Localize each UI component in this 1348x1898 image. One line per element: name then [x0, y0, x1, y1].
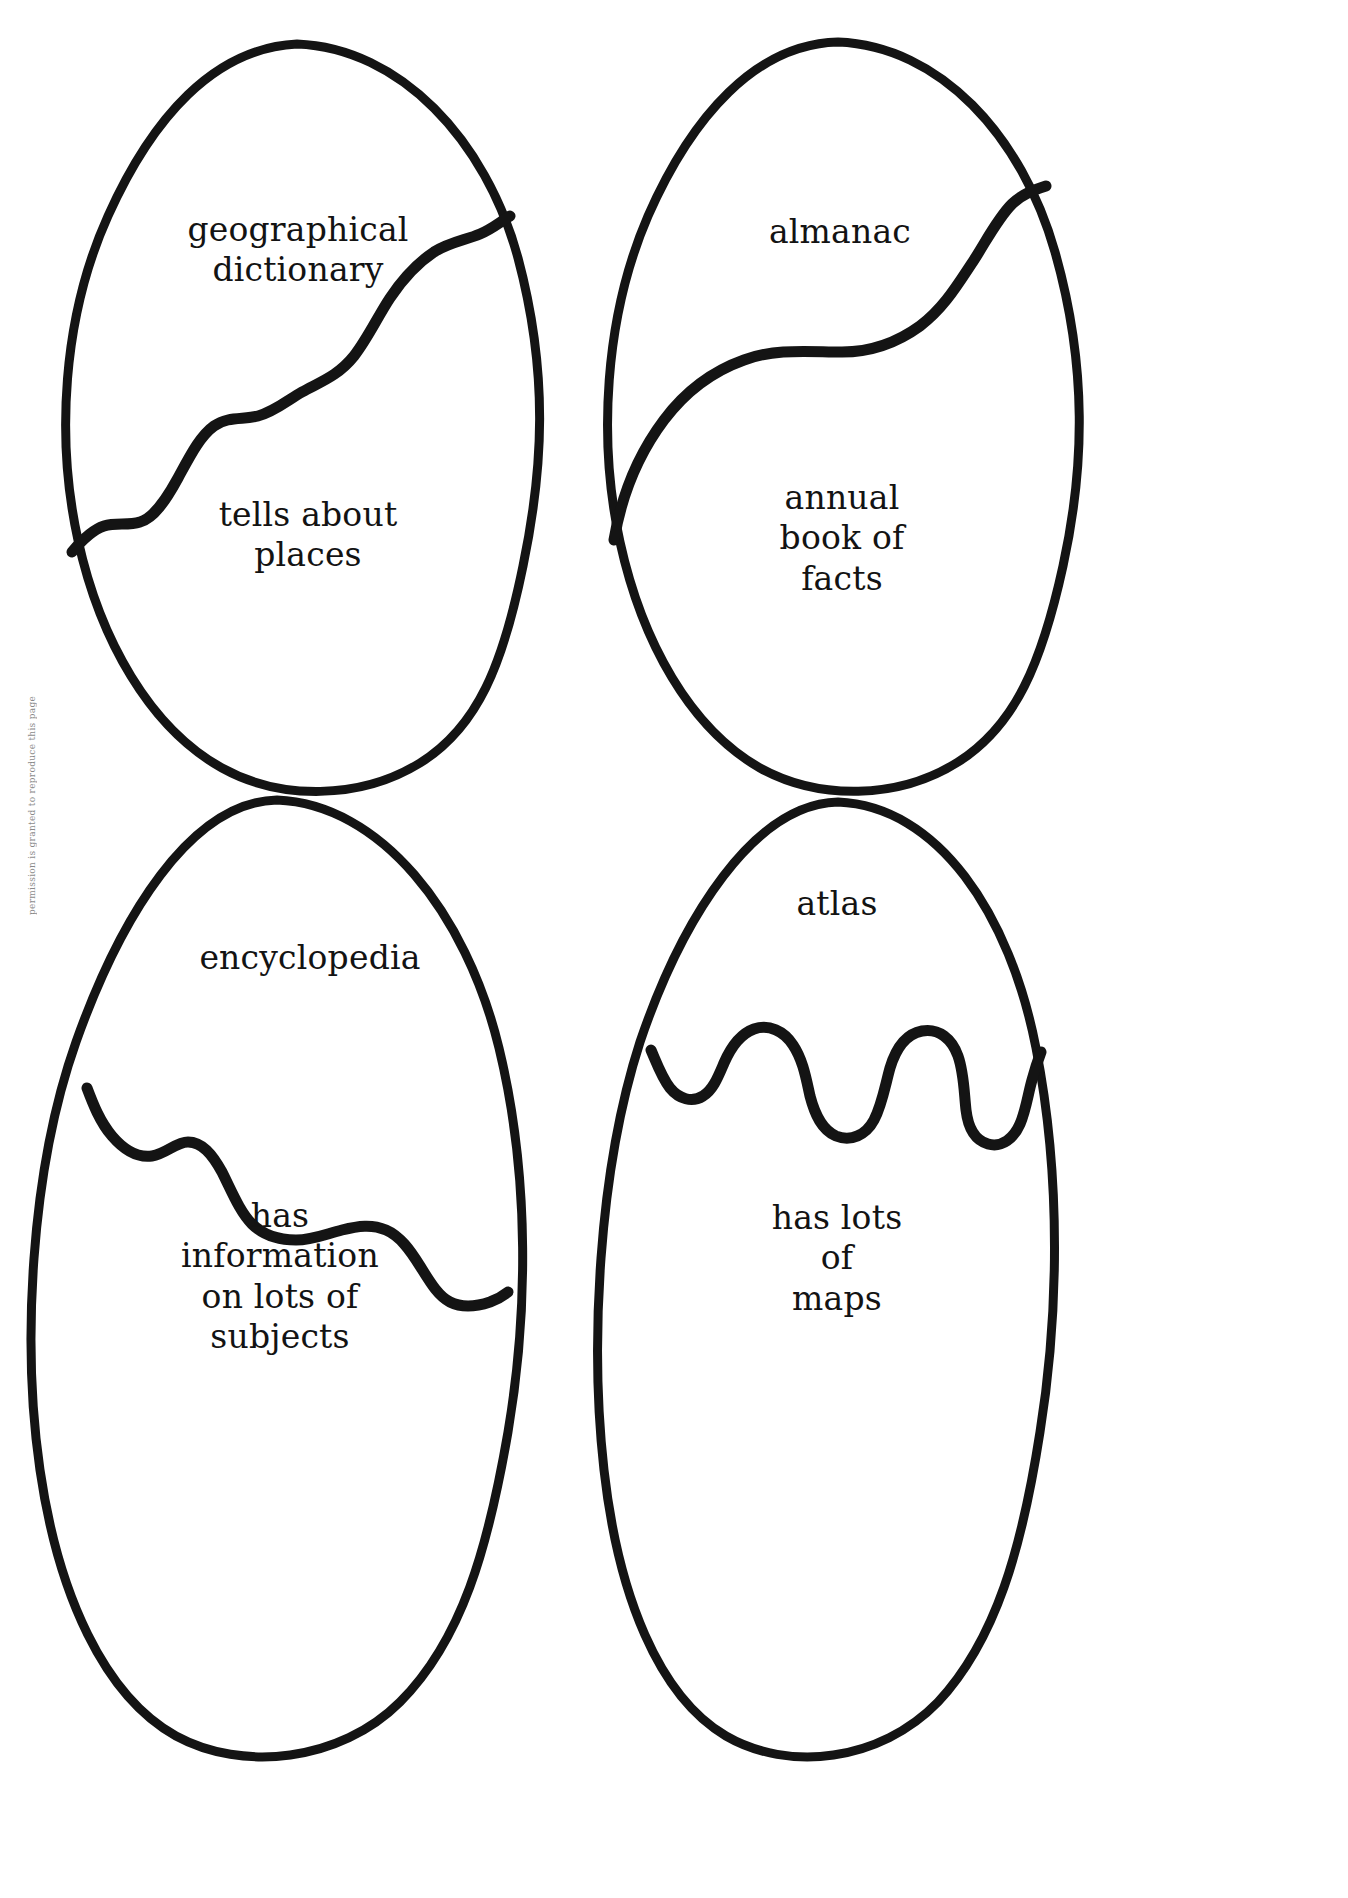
- egg-label-atlas-bottom: has lots of maps: [712, 1198, 962, 1319]
- egg-outline-almanac: [608, 42, 1080, 791]
- egg-label-almanac-bottom: annual book of facts: [712, 478, 972, 599]
- egg-label-geographical-dictionary-bottom: tells about places: [178, 495, 438, 576]
- egg-label-atlas-top: atlas: [712, 884, 962, 924]
- egg-label-encyclopedia-bottom: has information on lots of subjects: [152, 1196, 408, 1357]
- egg-outline-geographical-dictionary: [66, 44, 540, 791]
- worksheet-page: geographical dictionary tells about plac…: [0, 0, 1348, 1898]
- egg-geographical-dictionary: [66, 44, 540, 791]
- egg-label-geographical-dictionary-top: geographical dictionary: [118, 210, 478, 291]
- egg-label-almanac-top: almanac: [700, 212, 980, 252]
- margin-permission-note: permission is granted to reproduce this …: [27, 615, 37, 915]
- egg-almanac: [608, 42, 1080, 791]
- egg-label-encyclopedia-top: encyclopedia: [150, 938, 470, 978]
